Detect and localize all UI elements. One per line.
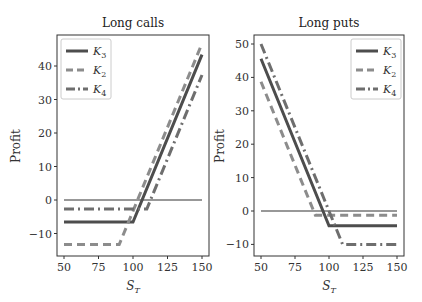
x-tick-label: 150	[387, 261, 408, 274]
y-tick-label: 20	[38, 127, 52, 140]
x-tick-label: 100	[123, 261, 144, 274]
x-tick-label: 100	[319, 261, 340, 274]
figure: Long calls 403020100−10 5075100125150 Pr…	[0, 0, 422, 302]
y-tick-label: 30	[235, 105, 249, 118]
right-x-axis: 5075100125150	[254, 256, 408, 274]
right-y-axis: 50403020100−10	[226, 38, 254, 251]
y-tick-label: −10	[226, 238, 249, 251]
y-tick-label: 30	[38, 94, 52, 107]
left-x-axis: 5075100125150	[57, 256, 213, 274]
right-chart: Long puts 50403020100−10 5075100125150 P…	[213, 16, 408, 295]
y-tick-label: 10	[235, 172, 249, 185]
y-tick-label: 0	[45, 194, 52, 207]
left-chart-title: Long calls	[102, 16, 164, 30]
x-tick-label: 75	[92, 261, 106, 274]
y-tick-label: 20	[235, 138, 249, 151]
x-tick-label: 150	[192, 261, 213, 274]
left-y-axis-label: Profit	[9, 129, 23, 163]
left-y-axis: 403020100−10	[29, 60, 57, 241]
right-x-axis-label: ST	[322, 279, 336, 295]
y-tick-label: 40	[235, 71, 249, 84]
left-legend: K3K2K4	[61, 39, 111, 99]
y-tick-label: 40	[38, 60, 52, 73]
left-x-axis-label: ST	[126, 279, 140, 295]
right-y-axis-label: Profit	[213, 129, 227, 163]
x-tick-label: 125	[157, 261, 178, 274]
x-tick-label: 125	[353, 261, 374, 274]
y-tick-label: 10	[38, 161, 52, 174]
series-k2	[261, 82, 397, 216]
left-chart: Long calls 403020100−10 5075100125150 Pr…	[9, 16, 213, 295]
x-tick-label: 50	[57, 261, 71, 274]
x-tick-label: 50	[254, 261, 268, 274]
y-tick-label: 0	[242, 205, 249, 218]
right-chart-title: Long puts	[299, 16, 360, 30]
x-tick-label: 75	[288, 261, 302, 274]
y-tick-label: −10	[29, 228, 52, 241]
right-legend: K3K2K4	[351, 39, 401, 99]
y-tick-label: 50	[235, 38, 249, 51]
